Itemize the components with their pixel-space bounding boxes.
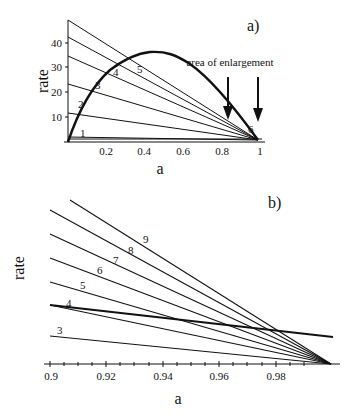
chart-b-line-label: 5 bbox=[80, 279, 86, 291]
chart-a-ylabel: rate bbox=[34, 69, 51, 93]
chart-b-xtick: 0.94 bbox=[153, 370, 173, 382]
chart-a-xtick: 0.8 bbox=[215, 145, 229, 157]
chart-b-line-label: 6 bbox=[97, 264, 103, 276]
chart-a-ytick: 10 bbox=[51, 111, 63, 123]
chart-a-point-label: 2 bbox=[78, 98, 84, 110]
chart-a-xlabel: a bbox=[156, 160, 163, 177]
chart-b-title: b) bbox=[268, 194, 281, 212]
chart-b-line-label: 3 bbox=[57, 324, 63, 336]
chart-b-lines bbox=[50, 200, 331, 364]
chart-a-title: a) bbox=[247, 17, 259, 35]
chart-a-point-label: 6 bbox=[248, 123, 254, 135]
arrow-icon bbox=[253, 77, 263, 122]
chart-a-xtick: 0.4 bbox=[137, 145, 151, 157]
chart-b-xtick: 0.92 bbox=[96, 370, 115, 382]
chart-a-ytick: 20 bbox=[51, 86, 63, 98]
chart-b-xtick: 0.96 bbox=[209, 370, 229, 382]
chart-a-ytick: 30 bbox=[51, 61, 63, 73]
chart-b-line-4-thick bbox=[50, 305, 333, 337]
chart-b: b) 0.9 0.92 0.94 0.96 0.98 bbox=[10, 194, 340, 407]
chart-a: a) 10 20 30 40 0.2 0.4 0.6 0.8 1 a rate bbox=[34, 17, 274, 177]
chart-b-ylabel: rate bbox=[10, 256, 27, 280]
chart-b-xtick: 0.9 bbox=[44, 370, 58, 382]
chart-a-point-label: 5 bbox=[137, 63, 143, 75]
chart-a-xtick: 0.2 bbox=[99, 145, 113, 157]
chart-a-point-label: 3 bbox=[95, 79, 101, 91]
chart-a-point-label: 4 bbox=[113, 66, 119, 78]
chart-b-line-label: 4 bbox=[66, 297, 72, 309]
chart-b-xtick: 0.98 bbox=[266, 370, 286, 382]
chart-b-line-label: 7 bbox=[113, 254, 119, 266]
chart-a-point-label: 1 bbox=[80, 127, 86, 139]
chart-a-ytick: 40 bbox=[51, 37, 63, 49]
chart-b-xlabel: a bbox=[174, 390, 181, 407]
chart-b-line-label: 8 bbox=[128, 244, 134, 256]
chart-a-annotation: area of enlargement bbox=[186, 56, 273, 68]
figure: a) 10 20 30 40 0.2 0.4 0.6 0.8 1 a rate bbox=[0, 0, 352, 420]
chart-a-xtick: 0.6 bbox=[176, 145, 190, 157]
chart-b-line-label: 9 bbox=[143, 233, 149, 245]
chart-a-xtick: 1 bbox=[257, 145, 263, 157]
